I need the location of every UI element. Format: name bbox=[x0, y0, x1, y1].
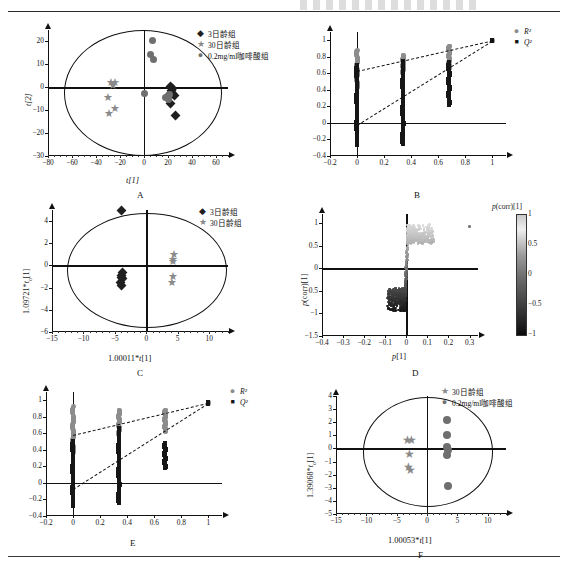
x-minor-tick bbox=[215, 331, 216, 333]
x-tick-label: 10 bbox=[200, 335, 218, 343]
x-minor-tick bbox=[216, 155, 217, 157]
legend-label-caffeic: 0.2mg/ml咖啡酸组 bbox=[208, 50, 269, 61]
panel-c: −15−10−50510−6−4−2024★★★★★ 1.09721*to[1]… bbox=[0, 196, 284, 378]
confidence-ellipse bbox=[67, 213, 227, 328]
circle-icon: ● bbox=[196, 51, 205, 60]
x-minor-tick bbox=[72, 155, 73, 157]
circle-icon: ● bbox=[512, 27, 521, 36]
y-tick bbox=[327, 57, 330, 58]
y-tick bbox=[333, 396, 336, 397]
x-tick-label: 0.8 bbox=[172, 519, 190, 527]
y-tick-label: −0.4 bbox=[304, 152, 326, 160]
x-minor-tick bbox=[209, 331, 210, 333]
x-axis-arrow bbox=[507, 152, 513, 158]
x-tick-label: 0.6 bbox=[145, 519, 163, 527]
s-plot-point bbox=[404, 275, 406, 277]
y-tick-label: 0.6 bbox=[304, 69, 326, 77]
y-tick-label: 0.2 bbox=[20, 462, 42, 470]
y-tick bbox=[49, 332, 52, 333]
s-plot-point bbox=[407, 243, 409, 245]
x-minor-tick bbox=[126, 155, 127, 157]
panel-d-ylabel: p(corr)[1] bbox=[300, 274, 309, 306]
y-axis-arrow bbox=[319, 207, 325, 213]
colorbar bbox=[516, 214, 527, 336]
x-minor-tick bbox=[451, 513, 452, 515]
x-tick-label: −40 bbox=[87, 159, 105, 167]
panel-a-xlabel: t[1] bbox=[126, 176, 139, 185]
x-minor-tick bbox=[391, 513, 392, 515]
s-plot-point bbox=[404, 303, 406, 305]
y-tick bbox=[327, 40, 330, 41]
colorbar-tick-label: −1 bbox=[528, 330, 536, 338]
y-tick bbox=[327, 73, 330, 74]
y-axis-arrow bbox=[49, 203, 55, 209]
y-tick-label: 1 bbox=[310, 431, 332, 439]
y-tick-label: −5 bbox=[310, 510, 332, 518]
x-minor-tick bbox=[366, 513, 367, 515]
y-tick-label: 0.4 bbox=[20, 446, 42, 454]
x-minor-tick bbox=[203, 331, 204, 333]
legend-label-caffeic: 0.2mg/ml咖啡酸组 bbox=[452, 397, 513, 408]
x-minor-tick bbox=[342, 513, 343, 515]
x-tick-label: 0.4 bbox=[402, 159, 420, 167]
x-minor-tick bbox=[197, 331, 198, 333]
header-divider bbox=[8, 11, 560, 12]
x-minor-tick bbox=[156, 155, 157, 157]
x-tick-label: −0.2 bbox=[355, 339, 373, 347]
y-tick bbox=[319, 246, 322, 247]
y-tick bbox=[49, 243, 52, 244]
x-axis-arrow bbox=[223, 512, 229, 518]
s-plot-point bbox=[405, 285, 407, 287]
circle-icon: ● bbox=[440, 398, 449, 407]
y-tick bbox=[319, 268, 322, 269]
data-point-circle bbox=[355, 48, 360, 53]
y-tick bbox=[45, 156, 48, 157]
trend-line bbox=[73, 403, 209, 490]
legend-label-q2: Q² bbox=[240, 398, 248, 407]
panel-c-xlabel: 1.00011*t[1] bbox=[108, 354, 151, 363]
y-tick bbox=[319, 336, 322, 337]
y-axis-arrow bbox=[43, 385, 49, 391]
x-minor-tick bbox=[171, 331, 172, 333]
y-tick bbox=[333, 514, 336, 515]
header-ghost-text bbox=[300, 0, 480, 10]
x-minor-tick bbox=[71, 331, 72, 333]
x-minor-tick bbox=[186, 155, 187, 157]
panel-f: −15−10−50510−5−4−3−2−101234★★★★★ 1.39068… bbox=[284, 382, 568, 558]
x-tick-label: −80 bbox=[39, 159, 57, 167]
s-plot-point bbox=[408, 229, 410, 231]
x-minor-tick bbox=[48, 155, 49, 157]
panel-e: −0.200.20.40.60.81−0.4−0.200.20.40.60.81… bbox=[0, 382, 284, 558]
x-tick-label: 0 bbox=[397, 339, 415, 347]
x-minor-tick bbox=[421, 513, 422, 515]
data-point-star: ★ bbox=[405, 434, 418, 446]
x-minor-tick bbox=[77, 331, 78, 333]
x-minor-tick bbox=[159, 331, 160, 333]
x-minor-tick bbox=[65, 331, 66, 333]
y-tick-label: −4 bbox=[310, 497, 332, 505]
circle-icon: ● bbox=[228, 387, 237, 396]
y-tick-label: −1 bbox=[296, 309, 318, 317]
y-tick-label: 2 bbox=[310, 418, 332, 426]
x-minor-tick bbox=[96, 331, 97, 333]
x-tick-label: 0.2 bbox=[375, 159, 393, 167]
s-plot-point bbox=[407, 231, 409, 233]
data-point-circle bbox=[149, 37, 156, 44]
y-axis-rail bbox=[322, 214, 323, 336]
x-minor-tick bbox=[90, 331, 91, 333]
legend-label-day30: 30日龄组 bbox=[208, 39, 240, 50]
panel-f-plot: −15−10−50510−5−4−3−2−101234★★★★★ bbox=[336, 396, 506, 514]
panel-d-plot: −0.4−0.3−0.2−0.100.10.20.3−1.5−1−0.500.5… bbox=[322, 214, 478, 336]
y-tick bbox=[333, 409, 336, 410]
x-tick-label: −60 bbox=[63, 159, 81, 167]
x-tick-label: 0.1 bbox=[418, 339, 436, 347]
s-plot-point bbox=[406, 234, 408, 236]
x-minor-tick bbox=[120, 155, 121, 157]
x-minor-tick bbox=[66, 155, 67, 157]
y-tick bbox=[333, 462, 336, 463]
x-minor-tick bbox=[190, 331, 191, 333]
y-tick bbox=[43, 433, 46, 434]
panel-b-plot: −0.200.20.40.60.81−0.4−0.200.20.40.60.81 bbox=[330, 32, 506, 156]
y-tick-label: 0 bbox=[304, 119, 326, 127]
y-tick-label: −30 bbox=[22, 152, 44, 160]
